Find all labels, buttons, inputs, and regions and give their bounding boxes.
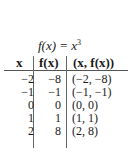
function-title: f(x) = x3 — [38, 38, 81, 54]
header-point: (x, f(x)) — [73, 55, 114, 71]
column-divider-2 — [66, 56, 67, 148]
header-fx: f(x) — [39, 55, 59, 71]
header-x: x — [16, 55, 23, 71]
